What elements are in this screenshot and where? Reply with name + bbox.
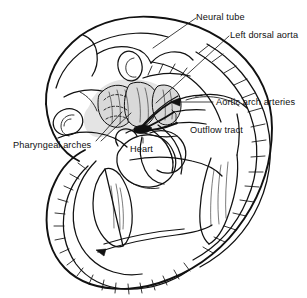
limb-bud-anterior — [93, 168, 132, 246]
embryo-diagram-figure: Neural tube Left dorsal aorta Aortic arc… — [0, 0, 307, 298]
label-neural-tube: Neural tube — [196, 12, 245, 22]
label-aortic-arch-arteries: Aortic arch arteries — [216, 97, 295, 107]
somite-column-caudal — [54, 161, 190, 294]
leader-left-dorsal-aorta — [156, 36, 229, 103]
label-pharyngeal-arches: Pharyngeal arches — [13, 140, 92, 150]
label-heart: Heart — [130, 144, 153, 154]
embryo-illustration: Neural tube Left dorsal aorta Aortic arc… — [0, 0, 307, 298]
label-left-dorsal-aorta: Left dorsal aorta — [230, 30, 299, 40]
leader-neural-tube — [153, 18, 196, 48]
somite-column-dorsal — [143, 44, 270, 267]
outflow-tract-structure — [150, 125, 182, 174]
heart-structure — [116, 129, 186, 189]
label-outflow-tract: Outflow tract — [190, 125, 243, 135]
ventral-body-wall — [96, 157, 222, 256]
embryo-body-outline — [46, 17, 272, 289]
